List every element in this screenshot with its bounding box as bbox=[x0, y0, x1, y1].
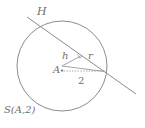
geometry-figure: H h r A 2 S(A,2) bbox=[0, 0, 145, 128]
label-length-2: 2 bbox=[78, 76, 84, 86]
label-height-h: h bbox=[62, 51, 68, 61]
label-radius-r: r bbox=[88, 51, 93, 61]
label-line-H: H bbox=[37, 6, 47, 17]
label-center-A: A bbox=[53, 65, 60, 75]
label-circle-notation: S(A,2) bbox=[4, 105, 35, 115]
center-point-A bbox=[61, 70, 63, 72]
